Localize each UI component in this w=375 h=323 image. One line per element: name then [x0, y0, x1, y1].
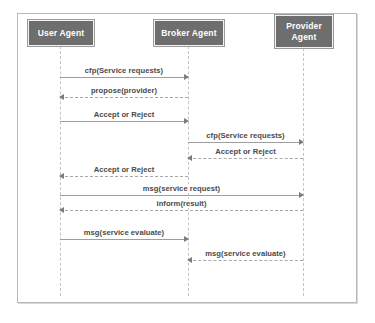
message-line: [60, 121, 188, 122]
message-label: cfp(Service requests): [188, 131, 303, 141]
message-label: msg(service evaluate): [60, 228, 188, 238]
participant-label: User Agent: [36, 28, 87, 39]
message-label-text: Accept or Reject: [91, 110, 158, 119]
message-label-text: Accept or Reject: [212, 147, 279, 156]
message-6[interactable]: Accept or Reject: [60, 165, 188, 179]
message-line: [60, 77, 188, 78]
message-label: Accept or Reject: [60, 165, 188, 175]
message-label: cfp(Service requests): [60, 66, 188, 76]
message-line: [60, 239, 188, 240]
participant-label: Provider Agent: [284, 21, 324, 42]
message-label-text: Accept or Reject: [91, 165, 158, 174]
message-label-text: msg(service request): [140, 184, 223, 193]
message-3[interactable]: Accept or Reject: [60, 110, 188, 124]
message-5[interactable]: Accept or Reject: [188, 147, 303, 161]
message-label-text: msg(service evaluate): [202, 249, 288, 258]
message-label: Accept or Reject: [188, 147, 303, 157]
message-4[interactable]: cfp(Service requests): [188, 131, 303, 145]
participant-user[interactable]: User Agent: [28, 20, 94, 46]
message-9[interactable]: msg(service evaluate): [60, 228, 188, 242]
message-1[interactable]: cfp(Service requests): [60, 66, 188, 80]
message-line: [188, 260, 303, 261]
message-label-text: inform(result): [153, 199, 209, 208]
message-label-text: cfp(Service requests): [203, 131, 287, 140]
sequence-diagram-canvas: User AgentBroker AgentProvider Agent cfp…: [0, 0, 375, 323]
message-line: [60, 210, 303, 211]
message-2[interactable]: propose(provider): [60, 86, 188, 100]
message-label: msg(service request): [60, 184, 303, 194]
participant-broker[interactable]: Broker Agent: [154, 20, 224, 46]
message-label: inform(result): [60, 199, 303, 209]
message-label-text: cfp(Service requests): [82, 66, 166, 75]
message-label: msg(service evaluate): [188, 249, 303, 259]
message-label-text: msg(service evaluate): [81, 228, 167, 237]
message-label: propose(provider): [60, 86, 188, 96]
lifeline-provider: [303, 48, 304, 296]
message-label-text: propose(provider): [88, 86, 160, 95]
participant-provider[interactable]: Provider Agent: [275, 15, 333, 48]
message-line: [60, 176, 188, 177]
participant-label: Broker Agent: [159, 28, 218, 39]
message-10[interactable]: msg(service evaluate): [188, 249, 303, 263]
message-7[interactable]: msg(service request): [60, 184, 303, 198]
message-line: [60, 97, 188, 98]
message-8[interactable]: inform(result): [60, 199, 303, 213]
message-line: [188, 142, 303, 143]
message-label: Accept or Reject: [60, 110, 188, 120]
message-line: [188, 158, 303, 159]
message-line: [60, 195, 303, 196]
